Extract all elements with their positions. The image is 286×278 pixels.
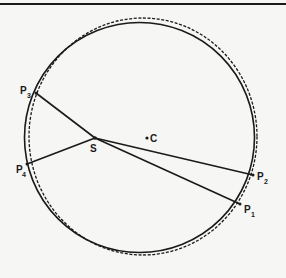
label-p3: P 3 [20, 85, 31, 99]
segment-s-p4 [27, 138, 95, 164]
label-p2: P 2 [257, 171, 268, 185]
dashed-circle [29, 18, 257, 255]
label-p3-main: P [20, 85, 27, 96]
segment-s-p1 [95, 138, 240, 204]
point-p2-marker [252, 174, 255, 177]
label-p1: P 1 [244, 204, 255, 218]
label-s: S [90, 143, 97, 154]
point-s-marker [93, 136, 97, 140]
label-p1-main: P [244, 204, 251, 215]
label-c: C [150, 133, 157, 144]
label-p4: P 4 [16, 164, 26, 178]
segment-s-p2 [95, 138, 253, 175]
label-p2-subscript: 2 [264, 178, 268, 185]
point-p4-marker [26, 163, 29, 166]
label-p1-subscript: 1 [251, 211, 255, 218]
point-p1-marker [239, 203, 242, 206]
point-c-marker [145, 136, 148, 139]
orbit-diagram: S C P 3 P 4 P 2 P 1 [0, 0, 286, 278]
label-p3-subscript: 3 [27, 92, 31, 99]
label-p4-subscript: 4 [22, 171, 26, 178]
label-p2-main: P [257, 171, 264, 182]
point-p3-marker [35, 92, 38, 95]
segment-s-p3 [36, 93, 95, 138]
